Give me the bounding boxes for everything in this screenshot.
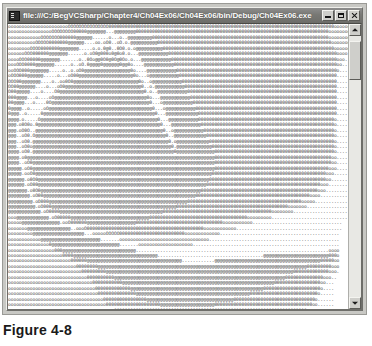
console-body: ooooooooooooooooooooooOOOOOOOOOOOOOOO000… <box>7 23 362 310</box>
window-title: file:///C:/BegVCSharp/Chapter4/Ch04Ex06/… <box>23 11 322 20</box>
console-window-outer-frame: file:///C:/BegVCSharp/Chapter4/Ch04Ex06/… <box>2 3 367 315</box>
close-button[interactable] <box>348 10 360 21</box>
triangle-down-icon <box>352 302 358 305</box>
console-window: file:///C:/BegVCSharp/Chapter4/Ch04Ex06/… <box>6 7 363 311</box>
scrollbar-thumb[interactable] <box>349 41 361 80</box>
maximize-icon <box>338 13 344 18</box>
minimize-icon <box>325 16 331 18</box>
figure-container: file:///C:/BegVCSharp/Chapter4/Ch04Ex06/… <box>0 0 372 346</box>
minimize-button[interactable] <box>322 10 334 21</box>
scroll-up-arrow-icon[interactable] <box>349 24 361 36</box>
figure-caption: Figure 4-8 <box>3 322 72 338</box>
console-window-icon[interactable] <box>9 11 20 21</box>
scrollbar-track[interactable] <box>349 36 361 297</box>
title-bar[interactable]: file:///C:/BegVCSharp/Chapter4/Ch04Ex06/… <box>7 8 362 23</box>
scroll-down-arrow-icon[interactable] <box>349 297 361 309</box>
maximize-button[interactable] <box>335 10 347 21</box>
window-controls <box>322 10 361 21</box>
vertical-scrollbar[interactable] <box>348 24 361 309</box>
console-output-text: ooooooooooooooooooooooOOOOOOOOOOOOOOO000… <box>8 24 348 309</box>
triangle-up-icon <box>352 28 358 31</box>
